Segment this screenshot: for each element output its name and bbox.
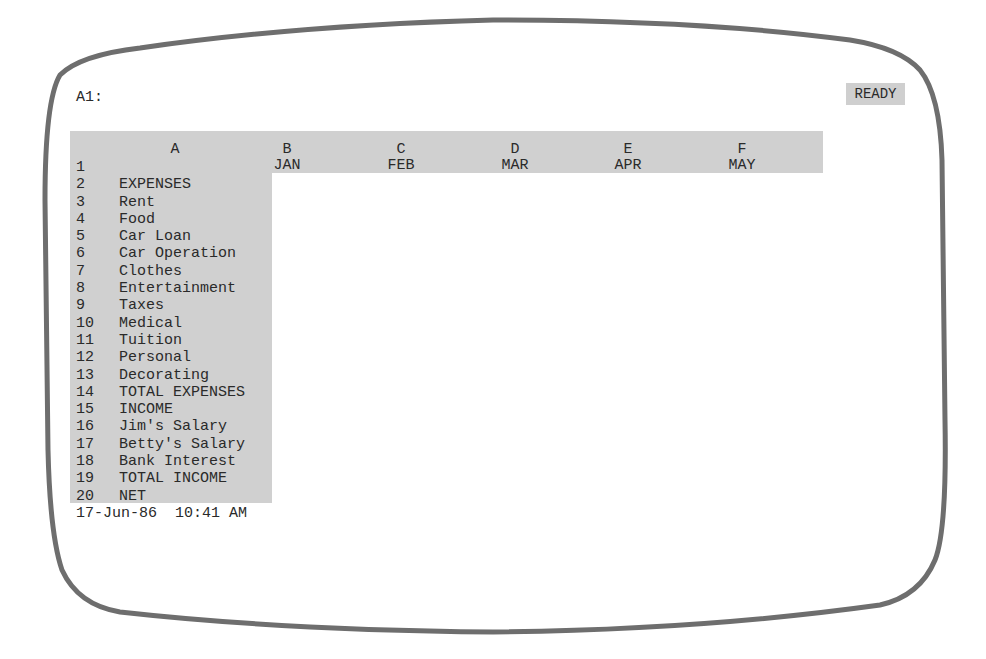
row-number: 2: [76, 176, 106, 193]
row-label: Taxes: [119, 297, 164, 314]
row-number: 14: [76, 384, 106, 401]
row-number: 10: [76, 315, 106, 332]
row-label: Rent: [119, 194, 155, 211]
row-number: 12: [76, 349, 106, 366]
row-label: Decorating: [119, 367, 209, 384]
row-label: Bank Interest: [119, 453, 236, 470]
row-number: 13: [76, 367, 106, 384]
row-label: Car Loan: [119, 228, 191, 245]
row-number: 5: [76, 228, 106, 245]
row-label: Clothes: [119, 263, 182, 280]
cell-d1[interactable]: MAR: [490, 157, 540, 174]
row-label: Medical: [119, 315, 182, 332]
row-label: TOTAL EXPENSES: [119, 384, 245, 401]
row-number: 16: [76, 418, 106, 435]
row-number: 6: [76, 245, 106, 262]
row-number: 1: [76, 159, 106, 176]
row-number: 17: [76, 436, 106, 453]
cell-e1[interactable]: APR: [603, 157, 653, 174]
row-number: 4: [76, 211, 106, 228]
row-number: 15: [76, 401, 106, 418]
status-date-time: 17-Jun-86 10:41 AM: [76, 505, 247, 522]
column-header-d[interactable]: D: [490, 141, 540, 158]
column-header-e[interactable]: E: [603, 141, 653, 158]
cell-f1[interactable]: MAY: [717, 157, 767, 174]
cell-reference: A1:: [76, 89, 103, 106]
row-label: Jim's Salary: [119, 418, 227, 435]
row-number: 19: [76, 470, 106, 487]
column-header-b[interactable]: B: [262, 141, 312, 158]
column-header-c[interactable]: C: [376, 141, 426, 158]
row-label: Betty's Salary: [119, 436, 245, 453]
column-header-a[interactable]: A: [150, 141, 200, 158]
row-number: 18: [76, 453, 106, 470]
column-header-f[interactable]: F: [717, 141, 767, 158]
cell-b1[interactable]: JAN: [262, 157, 312, 174]
row-label: Entertainment: [119, 280, 236, 297]
row-number: 7: [76, 263, 106, 280]
row-label: NET: [119, 488, 146, 505]
mode-indicator: READY: [846, 83, 905, 105]
row-label: INCOME: [119, 401, 173, 418]
row-number: 9: [76, 297, 106, 314]
row-label: Car Operation: [119, 245, 236, 262]
row-label: Personal: [119, 349, 191, 366]
cell-c1[interactable]: FEB: [376, 157, 426, 174]
row-label: Food: [119, 211, 155, 228]
spreadsheet-screen: A1: READY A B C D E F JAN FEB MAR APR MA…: [0, 0, 986, 659]
row-label: TOTAL INCOME: [119, 470, 227, 487]
row-label: EXPENSES: [119, 176, 191, 193]
row-number: 20: [76, 488, 106, 505]
row-number: 3: [76, 194, 106, 211]
row-label: Tuition: [119, 332, 182, 349]
row-number: 11: [76, 332, 106, 349]
row-number: 8: [76, 280, 106, 297]
